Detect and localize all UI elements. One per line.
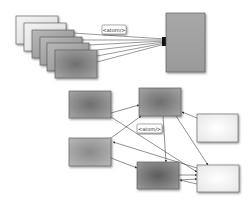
top-atom-label: <atom/> xyxy=(102,25,126,34)
source-page-stack xyxy=(16,16,97,78)
node-a[interactable] xyxy=(69,91,111,118)
connector-line xyxy=(97,42,165,50)
edge-f-e xyxy=(180,180,197,184)
node-d[interactable] xyxy=(69,138,111,166)
edge-d-e xyxy=(111,158,137,168)
node-c[interactable] xyxy=(197,114,238,142)
edge-a-b xyxy=(111,105,139,113)
source-page[interactable] xyxy=(55,50,97,78)
node-e[interactable] xyxy=(137,162,179,189)
connector-line xyxy=(89,41,165,45)
node-b[interactable] xyxy=(139,88,181,116)
connector-line xyxy=(97,44,165,62)
diagram-canvas: <atom/> <atom/> xyxy=(0,0,252,201)
edge-c-b xyxy=(182,112,197,118)
node-f[interactable] xyxy=(197,165,239,192)
bottom-atom-label-text: <atom/> xyxy=(138,126,161,132)
edge-d-b xyxy=(111,116,141,138)
aggregate-target-box[interactable] xyxy=(166,13,205,72)
edge-e-f-2 xyxy=(179,179,197,180)
connector-junction xyxy=(162,37,166,46)
top-atom-label-text: <atom/> xyxy=(102,27,125,33)
connector-line xyxy=(97,43,165,56)
bottom-atom-label: <atom/> xyxy=(137,124,162,133)
edge-b-e xyxy=(163,116,166,162)
